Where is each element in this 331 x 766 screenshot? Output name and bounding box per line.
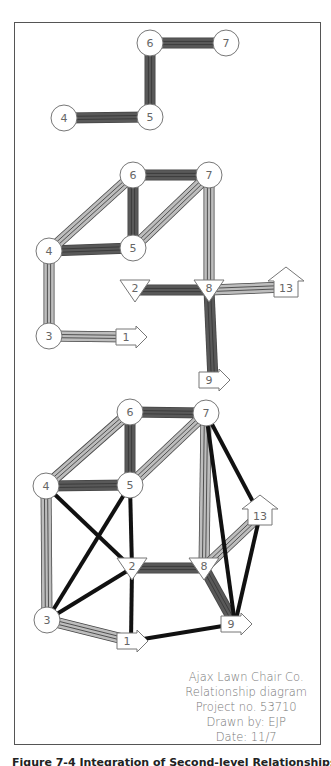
edge-1-9-negative (131, 624, 235, 641)
node-label: 6 (147, 37, 154, 50)
node-label: 1 (123, 331, 130, 344)
node-6-circle: 6 (120, 162, 146, 188)
node-label: 6 (130, 169, 137, 182)
node-label: 4 (61, 112, 68, 125)
date: Date: 11/7 (185, 730, 307, 745)
node-9-arrow: 9 (221, 613, 252, 635)
node-label: 13 (253, 510, 267, 523)
node-label: 5 (127, 479, 134, 492)
node-3-circle: 3 (34, 607, 60, 633)
project-number: Project no. 53710 (185, 700, 307, 715)
edge-4-3-moderate (44, 486, 48, 620)
edge-4-2-negative (46, 486, 132, 568)
title-block: Ajax Lawn Chair Co. Relationship diagram… (185, 670, 307, 745)
node-5-circle: 5 (137, 104, 163, 130)
node-5-circle: 5 (120, 235, 146, 261)
node-label: 6 (127, 406, 134, 419)
edge-4-6-moderate (45, 411, 131, 487)
node-7-circle: 7 (193, 400, 219, 426)
company-name: Ajax Lawn Chair Co. (185, 670, 307, 685)
node-4-circle: 4 (51, 105, 77, 131)
node-1-arrow: 1 (117, 630, 148, 652)
node-7-circle: 7 (213, 30, 239, 56)
node-5-circle: 5 (117, 472, 143, 498)
node-label: 2 (129, 560, 136, 573)
drawn-by: Drawn by: EJP (185, 715, 307, 730)
edge-4-6-moderate (48, 174, 134, 252)
node-7-circle: 7 (196, 162, 222, 188)
node-label: 7 (203, 407, 210, 420)
node-label: 1 (124, 635, 131, 648)
edge-7-8-moderate (202, 413, 207, 568)
diagram-stage-2: 67453128139 (36, 162, 304, 391)
edge-2-8-strong (135, 288, 209, 291)
node-label: 7 (223, 37, 230, 50)
edge-2-8-strong (132, 566, 204, 569)
relationship-diagram-canvas: 67546745312813967451328391 (0, 0, 331, 766)
node-label: 2 (132, 282, 139, 295)
edge-2-3-negative (47, 568, 132, 620)
diagram-stage-1: 6754 (51, 30, 239, 131)
edge-5-7-moderate (129, 412, 207, 486)
node-label: 9 (206, 374, 213, 387)
edge-7-8-moderate (207, 175, 210, 290)
node-9-arrow: 9 (199, 369, 230, 391)
node-label: 13 (279, 282, 293, 295)
node-label: 5 (147, 111, 154, 124)
node-label: 3 (46, 330, 53, 343)
node-label: 8 (206, 282, 213, 295)
node-label: 9 (228, 618, 235, 631)
figure-caption: Figure 7-4 Integration of Second-level R… (12, 756, 331, 766)
node-label: 3 (44, 614, 51, 627)
node-label: 4 (46, 245, 53, 258)
edge-8-9-strong (207, 290, 214, 380)
node-4-circle: 4 (36, 238, 62, 264)
node-6-circle: 6 (117, 399, 143, 425)
edge-5-7-moderate (132, 174, 210, 249)
node-label: 7 (206, 169, 213, 182)
node-label: 4 (43, 480, 50, 493)
document-type: Relationship diagram (185, 685, 307, 700)
node-label: 5 (130, 242, 137, 255)
node-6-circle: 6 (137, 30, 163, 56)
node-1-arrow: 1 (116, 326, 147, 348)
node-3-circle: 3 (36, 323, 62, 349)
node-4-circle: 4 (33, 473, 59, 499)
node-label: 8 (201, 560, 208, 573)
diagram-stage-3: 67451328391 (33, 399, 278, 652)
